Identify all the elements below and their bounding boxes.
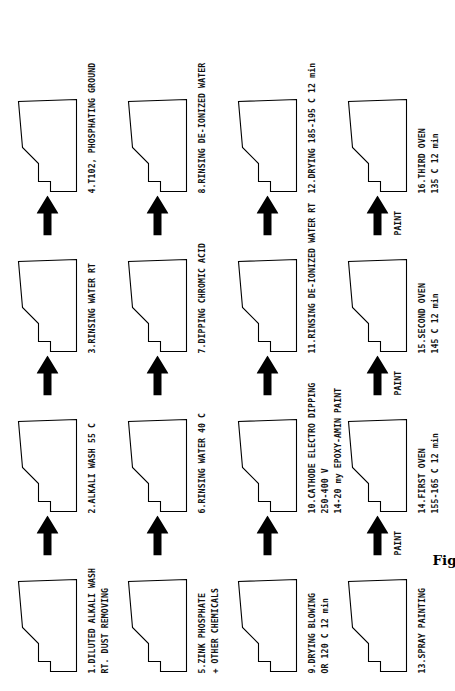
step-sublabel: OR 120 C 12 min: [319, 598, 329, 673]
process-step: [236, 97, 298, 193]
flow-arrow-icon: [146, 515, 168, 555]
process-step: [16, 257, 78, 353]
process-step: [236, 577, 298, 673]
process-step: [16, 97, 78, 193]
step-sublabel: 145 C 12 min: [429, 293, 439, 353]
process-step: [126, 97, 188, 193]
flow-arrow-icon: [146, 355, 168, 395]
step-label: 1.DILUTED ALKALI WASH: [86, 567, 96, 673]
car-body-profile-icon: [346, 577, 408, 673]
car-body-profile-icon: [16, 97, 78, 193]
process-step: [16, 577, 78, 673]
rotated-figure-canvas: 1.DILUTED ALKALI WASHRT. DUST REMOVING2.…: [0, 0, 455, 691]
flow-arrow-icon: [256, 355, 278, 395]
car-body-profile-icon: [236, 417, 298, 513]
car-body-profile-icon: [236, 97, 298, 193]
car-body-profile-icon: [126, 257, 188, 353]
process-step: [16, 417, 78, 513]
car-body-profile-icon: [346, 417, 408, 513]
step-label: 10.CATHODE ELECTRO DIPPING: [306, 382, 316, 513]
process-step: [126, 257, 188, 353]
step-label: 11.RINSING DE-IONIZED WATER RT: [306, 202, 316, 353]
step-label: 4.T102, PHOSPHATING GROUND: [86, 62, 96, 193]
step-label: 16.THIRD OVEN: [416, 128, 426, 193]
car-body-profile-icon: [16, 577, 78, 673]
car-body-profile-icon: [126, 577, 188, 673]
process-step: [236, 257, 298, 353]
step-label: 7.DIPPING CHROMIC ACID: [196, 242, 206, 353]
step-label: 14.FIRST OVEN: [416, 448, 426, 513]
figure-caption: Figure 6-25 Thermal constraints during a…: [432, 551, 455, 567]
flow-arrow-icon: [36, 515, 58, 555]
car-body-profile-icon: [16, 257, 78, 353]
flow-arrow-icon: [146, 195, 168, 235]
process-step: [236, 417, 298, 513]
step-sublabel: 155-165 C 12 min: [429, 433, 439, 513]
process-step: [346, 97, 408, 193]
step-label: 5.ZINK PHOSPHATE: [196, 593, 206, 673]
paint-arrow-label: PAINT: [392, 530, 402, 555]
step-label: 6.RINSING WATER 40 C: [196, 412, 206, 513]
step-label: 8.RINSING DE-IONIZED WATER: [196, 62, 206, 193]
process-flow-diagram: 1.DILUTED ALKALI WASHRT. DUST REMOVING2.…: [0, 0, 455, 691]
car-body-profile-icon: [126, 97, 188, 193]
step-label: 3.RINSING WATER RT: [86, 262, 96, 353]
process-step: [346, 257, 408, 353]
flow-arrow-icon: [366, 195, 388, 235]
step-sublabel: RT. DUST REMOVING: [99, 588, 109, 674]
car-body-profile-icon: [346, 257, 408, 353]
step-sublabel: 250-400 V: [319, 468, 329, 513]
step-label: 12.DRYING 185-195 C 12 min: [306, 62, 316, 193]
step-label: 13.SPRAY PAINTING: [416, 588, 426, 674]
step-label: 15.SECOND OVEN: [416, 283, 426, 353]
car-body-profile-icon: [16, 417, 78, 513]
flow-arrow-icon: [36, 355, 58, 395]
step-sublabel: + OTHER CHEMICALS: [209, 588, 219, 674]
step-label: 2.ALKALI WASH 55 C: [86, 422, 96, 513]
step-sublabel: 14-20 my EPOXY-AMIN PAINT: [332, 387, 342, 513]
flow-arrow-icon: [256, 195, 278, 235]
step-sublabel: 135 C 12 min: [429, 133, 439, 193]
process-step: [346, 577, 408, 673]
process-step: [126, 417, 188, 513]
car-body-profile-icon: [126, 417, 188, 513]
process-step: [126, 577, 188, 673]
paint-arrow-label: PAINT: [392, 370, 402, 395]
car-body-profile-icon: [236, 257, 298, 353]
process-step: [346, 417, 408, 513]
car-body-profile-icon: [236, 577, 298, 673]
flow-arrow-icon: [256, 515, 278, 555]
step-label: 9.DRYING BLOWING: [306, 593, 316, 673]
car-body-profile-icon: [346, 97, 408, 193]
flow-arrow-icon: [36, 195, 58, 235]
paint-arrow-label: PAINT: [392, 210, 402, 235]
flow-arrow-icon: [366, 515, 388, 555]
flow-arrow-icon: [366, 355, 388, 395]
